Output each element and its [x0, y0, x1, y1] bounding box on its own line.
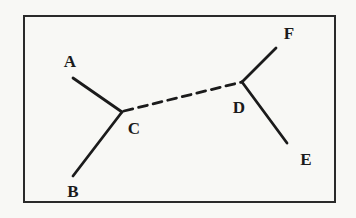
edge-d-e [242, 82, 287, 143]
node-label-e: E [300, 151, 311, 168]
node-label-b: B [67, 183, 78, 200]
edge-d-f [242, 48, 276, 82]
node-label-c: C [128, 120, 140, 137]
tree-diagram-figure: ABCDEF [0, 0, 356, 218]
node-label-d: D [233, 99, 245, 116]
edge-c-d [124, 82, 242, 111]
node-label-f: F [284, 25, 294, 42]
node-label-a: A [64, 53, 76, 70]
edge-a-c [73, 78, 122, 112]
edge-b-c [73, 112, 122, 176]
tree-edges-svg [0, 0, 356, 218]
